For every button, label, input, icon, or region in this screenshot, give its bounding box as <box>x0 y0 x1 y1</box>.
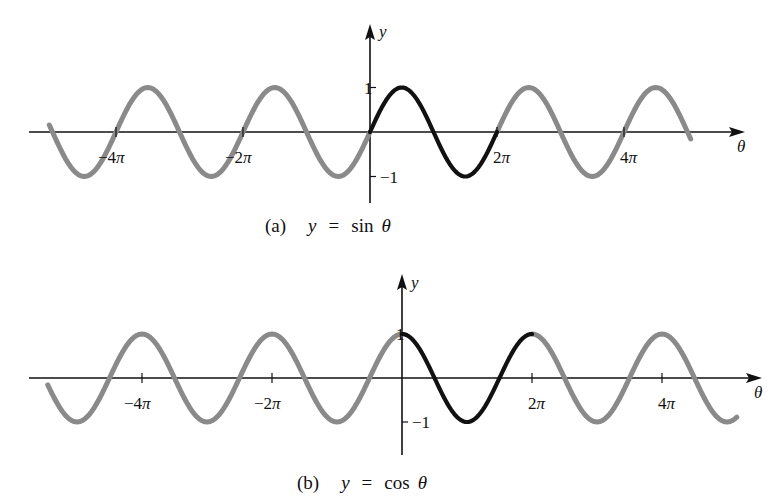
y-tick-label: 1 <box>396 325 405 344</box>
x-axis-label: θ <box>754 383 762 402</box>
x-tick-label: −4π <box>98 148 125 167</box>
trig-figure: −4π−2π2π4π1−1 θ y (a)y=sinθ −4π−2π2π4π1−… <box>0 0 780 504</box>
x-tick-label: 4π <box>658 394 676 413</box>
x-tick-label: −2π <box>254 394 281 413</box>
y-tick-label: 1 <box>364 79 373 98</box>
panel-b-cosine-graph: −4π−2π2π4π1−1 θ y (b)y=cosθ <box>29 273 762 494</box>
y-axis-label: y <box>409 273 419 292</box>
figure-canvas: −4π−2π2π4π1−1 θ y (a)y=sinθ −4π−2π2π4π1−… <box>0 0 780 504</box>
panel-b-caption: (b)y=cosθ <box>297 472 427 494</box>
x-axis-label: θ <box>737 137 745 156</box>
panel-a-sine-graph: −4π−2π2π4π1−1 θ y (a)y=sinθ <box>29 22 745 237</box>
x-tick-label: 4π <box>620 148 638 167</box>
x-tick-label: −2π <box>225 148 252 167</box>
x-tick-label: 2π <box>528 394 546 413</box>
x-tick-label: 2π <box>493 148 511 167</box>
y-tick-label: −1 <box>412 413 430 432</box>
y-axis-label: y <box>377 22 387 41</box>
x-tick-label: −4π <box>124 394 151 413</box>
panel-a-caption: (a)y=sinθ <box>265 215 391 237</box>
y-tick-label: −1 <box>380 168 398 187</box>
